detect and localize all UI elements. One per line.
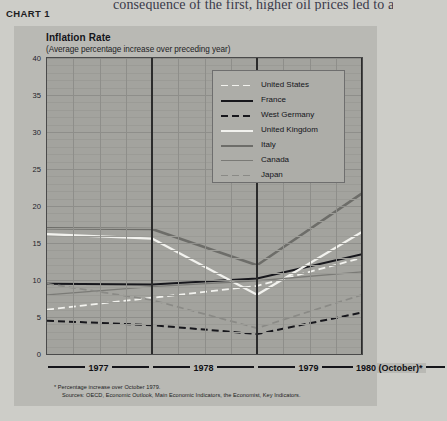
legend-item-label: Japan: [261, 170, 283, 179]
legend-item: West Germany: [221, 107, 344, 122]
y-axis-tick-label: 40: [33, 54, 41, 63]
footnote-line: Sources: OECD, Economic Outlook, Main Ec…: [54, 391, 364, 399]
x-axis-year-label: 1978: [190, 363, 216, 373]
footnote-line: * Percentage increase over October 1979.: [54, 383, 364, 391]
chart-title: Inflation Rate: [46, 32, 111, 43]
legend-item: Canada: [221, 152, 344, 167]
gridline-horizontal: [47, 354, 362, 355]
y-axis-labels: 0510152025303540: [14, 57, 44, 355]
legend-item: Japan: [221, 167, 344, 182]
y-axis-tick-label: 25: [33, 165, 41, 174]
y-axis-tick-label: 10: [33, 276, 41, 285]
page-body-text-fragment: consequence of the first, higher oil pri…: [113, 0, 393, 11]
y-axis-tick-label: 15: [33, 239, 41, 248]
legend-item: United Kingdom: [221, 122, 344, 137]
x-axis-year-group: 1977: [46, 359, 151, 377]
legend-item-label: Italy: [261, 140, 276, 149]
legend-item-label: Canada: [261, 155, 289, 164]
series-line-west-germany: [47, 313, 362, 334]
legend-item-label: France: [261, 95, 286, 104]
y-axis-tick-label: 5: [37, 313, 41, 322]
chart-legend: United StatesFranceWest GermanyUnited Ki…: [212, 70, 345, 183]
legend-item: Italy: [221, 137, 344, 152]
legend-item-label: West Germany: [261, 110, 314, 119]
legend-item: United States: [221, 77, 344, 92]
y-axis-tick-label: 20: [33, 202, 41, 211]
y-axis-tick-label: 0: [37, 350, 41, 359]
y-axis-tick-label: 35: [33, 91, 41, 100]
chart-footnotes: * Percentage increase over October 1979.…: [54, 383, 364, 399]
x-axis-year-label: 1977: [85, 363, 111, 373]
chart-panel: Inflation Rate (Average percentage incre…: [14, 26, 377, 406]
year-divider: [151, 58, 153, 354]
x-axis-year-labels: 1977197819791980 (October)*: [46, 359, 363, 379]
series-line-france: [47, 254, 362, 284]
legend-item-label: United Kingdom: [261, 125, 318, 134]
x-axis-year-group: 1978: [151, 359, 256, 377]
chart-subtitle: (Average percentage increase over preced…: [46, 45, 230, 54]
x-axis-year-label: 1979: [295, 363, 321, 373]
x-axis-year-group: 1980 (October)*: [332, 359, 447, 377]
series-line-united-kingdom: [47, 232, 362, 295]
x-axis-year-label: 1980 (October)*: [353, 363, 426, 373]
year-divider: [361, 58, 363, 354]
chart-number-label: CHART 1: [6, 8, 50, 19]
legend-item: France: [221, 92, 344, 107]
legend-item-label: United States: [261, 80, 309, 89]
series-line-italy: [47, 193, 362, 265]
y-axis-tick-label: 30: [33, 128, 41, 137]
